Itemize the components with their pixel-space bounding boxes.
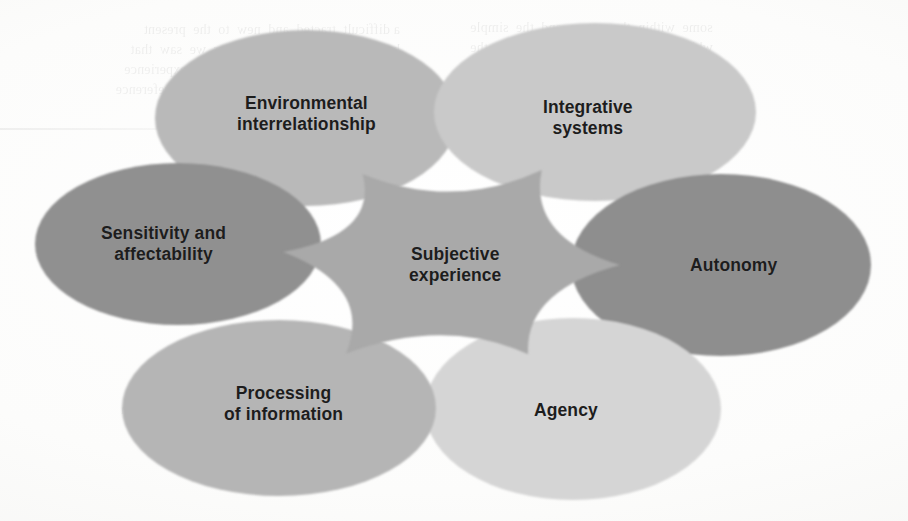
petal-agency[interactable] <box>425 318 721 500</box>
petal-integrative-systems[interactable] <box>434 23 756 201</box>
petal-sensitivity-and-affectability[interactable] <box>35 163 321 325</box>
petal-processing-of-information[interactable] <box>122 320 436 496</box>
subjective-experience-diagram <box>0 0 908 521</box>
scanned-page: a difficult tracted and new to the prese… <box>0 0 908 521</box>
diagram-canvas <box>0 0 908 521</box>
